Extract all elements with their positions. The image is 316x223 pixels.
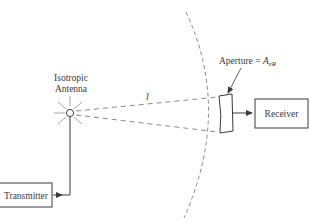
antenna-label-line2: Antenna [55, 84, 88, 94]
beam-lower-line [76, 115, 218, 132]
distance-label: l [146, 91, 149, 102]
aperture-label-subscript: eR [269, 60, 277, 68]
receiver-label: Receiver [265, 109, 300, 119]
isotropic-antenna-icon [66, 109, 73, 116]
wavefront-arc [184, 12, 209, 218]
feed-line [62, 117, 70, 195]
aperture-pointer-arrow-icon [228, 68, 241, 93]
aperture-label: Aperture = AeR [219, 56, 277, 68]
aperture-label-prefix: Aperture = [219, 56, 263, 66]
aperture-element [219, 94, 233, 133]
antenna-label-line1: Isotropic [54, 73, 88, 83]
transmitter-label: Transmitter [4, 191, 49, 201]
diagram-canvas: Isotropic Antenna l Aperture = AeR Recei… [0, 0, 316, 223]
